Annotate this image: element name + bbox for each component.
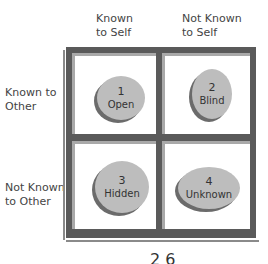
quadrant-number: 3 <box>95 174 149 187</box>
row-header-not-known-to-other: Not Known to Other <box>5 181 65 209</box>
column-header-line2: to Self <box>182 26 242 40</box>
quadrant-label: Open <box>97 98 145 111</box>
quadrant-number: 4 <box>178 175 240 188</box>
quadrant-number: 2 <box>192 81 232 94</box>
column-header-not-known-to-self: Not Known to Self <box>182 12 242 40</box>
quadrant-label: Unknown <box>178 188 240 201</box>
quadrant-hidden: 3 Hidden <box>72 141 156 229</box>
quadrant-blind: 2 Blind <box>162 53 250 134</box>
row-header-known-to-other: Known to Other <box>5 86 56 114</box>
quadrant-oval-hidden: 3 Hidden <box>95 161 149 213</box>
row-header-line2: Other <box>5 100 56 114</box>
quadrant-open: 1 Open <box>72 53 156 134</box>
quadrant-oval-blind: 2 Blind <box>192 69 232 119</box>
column-header-line1: Known <box>96 12 133 26</box>
quadrant-label: Blind <box>192 94 232 107</box>
johari-grid: 1 Open 2 Blind 3 Hidden 4 Unknown <box>66 47 256 238</box>
quadrant-unknown: 4 Unknown <box>162 141 250 229</box>
footer-fragment: 2 6 <box>150 250 190 264</box>
quadrant-oval-unknown: 4 Unknown <box>178 167 240 209</box>
column-header-line2: to Self <box>96 26 133 40</box>
row-header-line2: to Other <box>5 195 65 209</box>
row-header-line1: Known to <box>5 86 56 100</box>
quadrant-number: 1 <box>97 85 145 98</box>
column-header-known-to-self: Known to Self <box>96 12 133 40</box>
row-header-line1: Not Known <box>5 181 65 195</box>
quadrant-label: Hidden <box>95 187 149 200</box>
quadrant-oval-open: 1 Open <box>97 76 145 120</box>
column-header-line1: Not Known <box>182 12 242 26</box>
